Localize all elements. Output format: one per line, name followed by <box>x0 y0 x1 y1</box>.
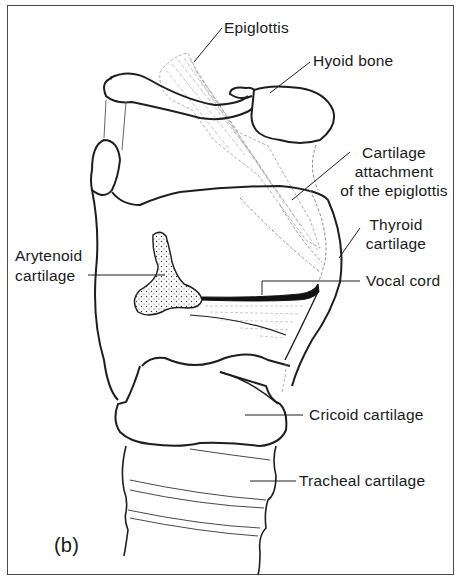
larynx-diagram <box>0 0 459 587</box>
label-arytenoid-line2: cartilage <box>15 266 75 285</box>
label-vocal-cord: Vocal cord <box>366 271 440 290</box>
cricoid-cartilage-shape <box>115 354 290 446</box>
panel-label: (b) <box>54 536 79 555</box>
vocal-cord-shape <box>190 284 319 360</box>
label-hyoid-bone: Hyoid bone <box>313 51 393 70</box>
label-arytenoid-line1: Arytenoid <box>15 246 82 265</box>
label-cartilage-attachment-line2: attachment <box>331 162 457 181</box>
arytenoid-cartilage-shape <box>134 232 202 315</box>
label-cricoid-cartilage: Cricoid cartilage <box>309 405 424 424</box>
hyoid-bone-shape <box>104 73 334 190</box>
tracheal-cartilage-shape <box>122 446 276 575</box>
label-cartilage-attachment-line1: Cartilage <box>331 143 457 162</box>
label-cartilage-attachment-line3: of the epiglottis <box>331 181 457 200</box>
label-thyroid-line1: Thyroid <box>361 215 431 234</box>
label-epiglottis: Epiglottis <box>224 18 289 37</box>
epiglottis-shape <box>160 53 320 250</box>
label-tracheal-cartilage: Tracheal cartilage <box>299 471 425 490</box>
label-thyroid-line2: cartilage <box>361 234 431 253</box>
